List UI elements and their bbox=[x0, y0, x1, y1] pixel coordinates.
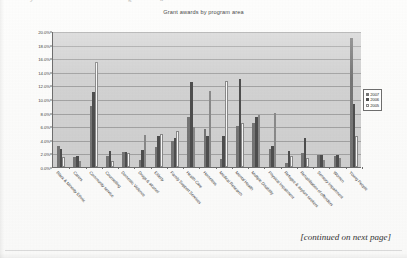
legend-label: 2007 bbox=[370, 92, 379, 97]
y-axis-tick-mark bbox=[50, 72, 52, 73]
bar bbox=[306, 158, 309, 167]
y-axis-tick-mark bbox=[50, 154, 52, 155]
bar bbox=[290, 156, 293, 167]
y-axis-tick-mark bbox=[50, 127, 52, 128]
bar-group bbox=[53, 32, 69, 167]
bar-group bbox=[86, 32, 102, 167]
bar-group bbox=[216, 32, 232, 167]
bar-group bbox=[281, 32, 297, 167]
bar-group bbox=[167, 32, 183, 167]
y-axis-tick-label: 6.0% bbox=[0, 125, 50, 130]
x-axis-tick-mark bbox=[362, 167, 363, 169]
legend-swatch-icon bbox=[366, 93, 369, 96]
x-axis-label: Homeless bbox=[202, 170, 218, 186]
legend-label: 2005 bbox=[370, 103, 379, 108]
y-axis-tick-label: 4.0% bbox=[0, 138, 50, 143]
y-axis-tick-label: 10.0% bbox=[0, 98, 50, 103]
bar bbox=[95, 62, 98, 167]
legend-swatch-icon bbox=[366, 104, 369, 107]
bar-group bbox=[102, 32, 118, 167]
legend-label: 2006 bbox=[370, 97, 379, 102]
y-axis-tick-label: 14.0% bbox=[0, 70, 50, 75]
bar-group bbox=[118, 32, 134, 167]
scan-edge-bottom bbox=[0, 253, 407, 258]
scan-edge-left bbox=[0, 0, 4, 258]
y-axis-tick-mark bbox=[50, 113, 52, 114]
plot-area bbox=[52, 32, 361, 168]
bar bbox=[160, 134, 163, 167]
continued-note: [continued on next page] bbox=[300, 232, 391, 242]
bar bbox=[355, 136, 358, 167]
y-axis-tick-mark bbox=[50, 100, 52, 101]
page-divider bbox=[5, 250, 402, 251]
y-axis-tick-mark bbox=[50, 45, 52, 46]
bar bbox=[258, 115, 261, 167]
bar-group bbox=[248, 32, 264, 167]
y-axis-tick-mark bbox=[50, 140, 52, 141]
bar-group bbox=[297, 32, 313, 167]
bar bbox=[274, 113, 277, 167]
x-axis-label: Women bbox=[332, 170, 345, 184]
bar-group bbox=[151, 32, 167, 167]
bar-group bbox=[264, 32, 280, 167]
y-axis-tick-label: 2.0% bbox=[0, 152, 50, 157]
bar-group bbox=[134, 32, 150, 167]
x-axis-label: Elderly bbox=[153, 170, 165, 182]
y-axis-tick-label: 12.0% bbox=[0, 84, 50, 89]
x-axis-label: Young People bbox=[348, 170, 369, 191]
y-axis-tick-mark bbox=[50, 86, 52, 87]
legend-swatch-icon bbox=[366, 98, 369, 101]
bar-series-container bbox=[53, 32, 361, 167]
bar bbox=[62, 157, 65, 167]
bar-group bbox=[313, 32, 329, 167]
x-axis-label: Black & Minority Ethnic bbox=[56, 170, 87, 203]
y-axis-tick-label: 16.0% bbox=[0, 57, 50, 62]
x-axis-label: Carers bbox=[72, 170, 84, 182]
x-axis-labels: Black & Minority EthnicCarersCommunity s… bbox=[52, 168, 361, 230]
bar-group bbox=[346, 32, 362, 167]
bar bbox=[225, 81, 228, 167]
bar-group bbox=[232, 32, 248, 167]
bar-group bbox=[69, 32, 85, 167]
bar bbox=[209, 91, 212, 167]
bar-group bbox=[199, 32, 215, 167]
chart-figure: 0.0%2.0%4.0%6.0%8.0%10.0%12.0%14.0%16.0%… bbox=[0, 0, 407, 230]
y-axis-tick-label: 0.0% bbox=[0, 166, 50, 171]
y-axis-tick-label: 8.0% bbox=[0, 111, 50, 116]
bar bbox=[79, 161, 82, 167]
bar bbox=[339, 158, 342, 167]
bar bbox=[323, 160, 326, 167]
y-axis-tick-mark bbox=[50, 32, 52, 33]
bar bbox=[111, 161, 114, 167]
y-axis-tick-label: 18.0% bbox=[0, 43, 50, 48]
bar bbox=[241, 123, 244, 167]
y-axis-tick-mark bbox=[50, 59, 52, 60]
legend-item: 2005 bbox=[366, 103, 380, 109]
bar-group bbox=[329, 32, 345, 167]
bar bbox=[193, 127, 196, 167]
bar-group bbox=[183, 32, 199, 167]
bar bbox=[144, 135, 147, 167]
bar bbox=[127, 153, 130, 167]
y-axis-tick-label: 20.0% bbox=[0, 30, 50, 35]
chart-legend: 2007 2006 2005 bbox=[363, 89, 382, 111]
bar bbox=[176, 131, 179, 167]
